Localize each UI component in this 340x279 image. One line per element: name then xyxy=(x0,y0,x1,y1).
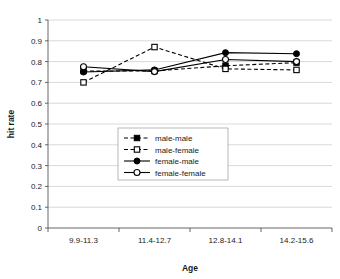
x-tick-label: 11.4-12.7 xyxy=(138,236,172,245)
chart-container: 00.10.20.30.40.50.60.70.80.919.9-11.311.… xyxy=(0,0,340,279)
y-tick-label: 0.9 xyxy=(31,37,43,46)
y-tick-label: 0 xyxy=(38,224,43,233)
series-male-female-point-1-marker xyxy=(152,44,157,49)
y-axis-title: hit rate xyxy=(6,110,16,139)
series-female-female-point-0-marker xyxy=(81,64,87,70)
y-tick-label: 0.2 xyxy=(31,182,43,191)
legend-male-male-marker xyxy=(134,135,139,140)
legend-label-male-male: male-male xyxy=(155,134,193,143)
legend-label-female-male: female-male xyxy=(155,157,200,166)
legend-female-female-marker xyxy=(134,170,140,176)
y-tick-label: 0.7 xyxy=(31,78,43,87)
x-axis-title: Age xyxy=(182,263,198,273)
series-female-female-point-2-marker xyxy=(223,57,229,63)
legend-label-male-female: male-female xyxy=(155,146,200,155)
y-tick-label: 1 xyxy=(38,16,43,25)
x-tick-label: 9.9-11.3 xyxy=(69,236,98,245)
x-tick-label: 14.2-15.6 xyxy=(280,236,314,245)
series-line-male-female xyxy=(84,47,297,82)
series-female-male-point-2-marker xyxy=(223,50,229,56)
series-female-female-point-1-marker xyxy=(152,69,158,75)
y-tick-label: 0.4 xyxy=(31,141,43,150)
series-male-female-point-2-marker xyxy=(223,66,228,71)
legend-female-male-marker xyxy=(134,158,140,164)
series-male-female xyxy=(84,47,297,82)
legend-label-female-female: female-female xyxy=(155,169,206,178)
series-markers-male-female xyxy=(81,44,299,85)
y-tick-label: 0.8 xyxy=(31,58,43,67)
line-chart: 00.10.20.30.40.50.60.70.80.919.9-11.311.… xyxy=(0,0,340,279)
series-female-female-point-3-marker xyxy=(294,59,300,65)
series-male-female-point-3-marker xyxy=(294,67,299,72)
x-tick-label: 12.8-14.1 xyxy=(209,236,243,245)
y-tick-label: 0.1 xyxy=(31,203,43,212)
y-tick-label: 0.6 xyxy=(31,99,43,108)
y-tick-label: 0.5 xyxy=(31,120,43,129)
series-female-male-point-3-marker xyxy=(294,51,300,57)
y-tick-label: 0.3 xyxy=(31,162,43,171)
legend-male-female-marker xyxy=(134,147,139,152)
series-male-female-point-0-marker xyxy=(81,80,86,85)
